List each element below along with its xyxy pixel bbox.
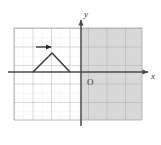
y-axis-label: y — [83, 9, 88, 19]
coordinate-grid-figure: x y O — [0, 0, 161, 145]
grid-major-lines — [14, 28, 142, 120]
x-axis-label: x — [150, 71, 155, 81]
origin-label: O — [87, 77, 94, 87]
coordinate-plane-svg: x y O — [0, 0, 161, 145]
